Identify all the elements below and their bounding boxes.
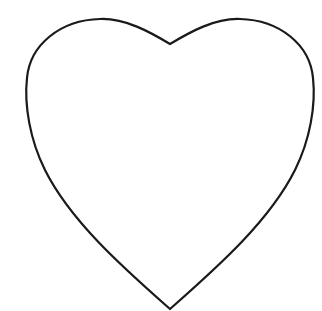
heart-canvas	[0, 0, 322, 311]
heart-outline	[26, 19, 314, 309]
heart-icon	[0, 0, 322, 311]
